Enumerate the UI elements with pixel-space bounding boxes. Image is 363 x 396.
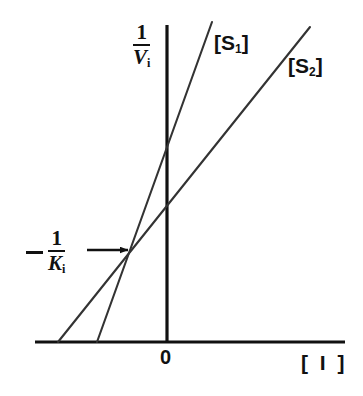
y-axis-label-fraction: 1 Vi bbox=[133, 22, 150, 68]
series-label-s2: [S2] bbox=[288, 55, 323, 76]
series-label-s1-base: S bbox=[221, 31, 235, 54]
ki-annotation-denominator-base: K bbox=[48, 251, 62, 275]
ki-annotation-denominator: Ki bbox=[48, 252, 65, 274]
y-axis-label-numerator: 1 bbox=[133, 22, 150, 46]
data-line-s1 bbox=[97, 22, 212, 342]
dixon-plot-figure: 1 Vi 1 Ki [S1] [S2] 0 [ I ] bbox=[0, 0, 363, 396]
ki-annotation-denominator-subscript: i bbox=[62, 262, 65, 276]
origin-label: 0 bbox=[160, 347, 171, 367]
ki-annotation-fraction: 1 Ki bbox=[48, 228, 65, 274]
ki-annotation-numerator: 1 bbox=[48, 228, 65, 252]
y-axis-label-denominator: Vi bbox=[133, 46, 150, 68]
data-line-s2 bbox=[58, 27, 310, 342]
y-axis-label-denominator-base: V bbox=[133, 45, 147, 69]
y-axis-label: 1 Vi bbox=[133, 22, 150, 68]
y-axis-label-denominator-subscript: i bbox=[147, 56, 150, 70]
x-axis-label: [ I ] bbox=[301, 352, 348, 373]
series-label-s2-base: S bbox=[295, 54, 309, 77]
series-label-s1-subscript: 1 bbox=[235, 42, 242, 56]
series-label-s2-subscript: 2 bbox=[309, 65, 316, 79]
minus-sign-icon bbox=[26, 251, 43, 254]
ki-annotation: 1 Ki bbox=[26, 228, 65, 274]
series-label-s1: [S1] bbox=[214, 32, 249, 53]
